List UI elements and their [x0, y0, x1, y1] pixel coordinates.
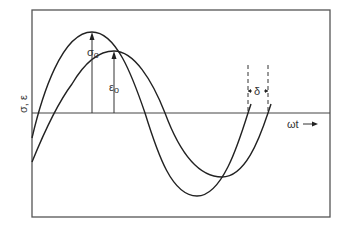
stress-curve [32, 32, 251, 196]
phase-lag-label: δ [254, 85, 260, 97]
stress-strain-diagram: σo εo δ ωt σ, ε [0, 0, 347, 229]
diagram-canvas: σo εo δ ωt σ, ε [0, 0, 347, 229]
x-axis-label: ωt [287, 118, 299, 130]
strain-curve [32, 51, 271, 177]
stress-amplitude-label: σo [87, 46, 99, 60]
strain-amplitude-arrow-icon [112, 51, 117, 59]
y-axis-label: σ, ε [17, 95, 29, 113]
stress-amplitude-arrow-icon [90, 32, 95, 40]
x-axis-arrow-icon [312, 122, 318, 127]
